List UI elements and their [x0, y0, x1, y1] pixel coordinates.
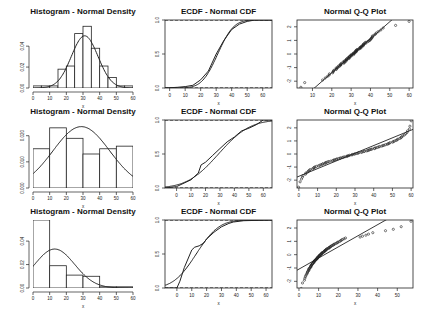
panel-title: Normal Q-Q Plot: [324, 207, 387, 216]
y-tick-label: 0.04: [20, 236, 25, 245]
chart-svg: Histogram - Normal Density0.000.020.0401…: [0, 0, 436, 313]
y-tick-label: 0.0: [155, 84, 160, 91]
y-tick-label: 0.00: [20, 283, 25, 292]
y-tick-label: 0.5: [155, 50, 160, 57]
y-tick-label: 0.0: [155, 284, 160, 291]
x-tick-label: 60: [130, 96, 136, 101]
qq-reference-line: [297, 129, 413, 177]
x-tick-label: 30: [214, 93, 220, 98]
x-tick-label: 20: [336, 293, 342, 298]
histogram-bar: [116, 146, 133, 188]
histogram-bar: [91, 48, 99, 88]
y-tick-label: 1.0: [155, 116, 160, 123]
y-tick-label: 0.010: [20, 156, 25, 168]
x-tick-label: 40: [234, 293, 240, 298]
x-tick-label: 50: [249, 293, 255, 298]
panel-title: ECDF - Normal CDF: [181, 7, 256, 16]
qq-point: [384, 230, 386, 232]
y-tick-label: 0: [287, 152, 292, 155]
panel-row2-col2: ECDF - Normal CDF0.00.51.00102030405060x: [155, 107, 272, 206]
normal-cdf-curve: [165, 20, 272, 88]
x-tick-label: 20: [329, 93, 335, 98]
x-tick-label: 10: [47, 296, 53, 301]
ecdf-line: [165, 20, 272, 88]
x-tick-label: 0: [176, 293, 179, 298]
x-axis-label: x: [217, 101, 220, 106]
x-tick-label: 60: [264, 293, 270, 298]
qq-point: [304, 82, 306, 84]
x-tick-label: 20: [203, 193, 209, 198]
y-tick-label: 1: [287, 240, 292, 243]
qq-point: [408, 128, 410, 130]
x-axis-label: x: [354, 201, 357, 206]
panel-row1-col3: Normal Q-Q Plot-2-1012102030405060x: [287, 1, 413, 106]
x-tick-label: 60: [260, 93, 266, 98]
x-tick-label: 40: [97, 96, 103, 101]
qq-point: [301, 282, 303, 284]
qq-point: [395, 24, 397, 26]
x-tick-label: 50: [114, 296, 120, 301]
x-tick-label: 60: [409, 193, 415, 198]
x-axis-label: x: [217, 301, 220, 306]
x-tick-label: 40: [375, 293, 381, 298]
plot-box: [165, 20, 272, 88]
y-tick-label: -2: [287, 279, 292, 283]
x-tick-label: 60: [407, 93, 413, 98]
y-tick-label: 0.00: [20, 83, 25, 92]
x-tick-label: 10: [189, 193, 195, 198]
x-tick-label: 0: [298, 293, 301, 298]
panel-title: ECDF - Normal CDF: [181, 207, 256, 216]
y-tick-label: 0.04: [20, 41, 25, 50]
panel-title: Histogram - Normal Density: [30, 107, 136, 116]
y-tick-label: 1: [287, 39, 292, 42]
ecdf-line: [165, 220, 272, 288]
histogram-bar: [100, 149, 117, 188]
x-tick-label: 40: [229, 93, 235, 98]
panel-row2-col3: Normal Q-Q Plot-2-10120102030405060x: [287, 107, 414, 206]
y-tick-label: -1: [287, 266, 292, 270]
y-tick-label: 0.5: [155, 150, 160, 157]
x-tick-label: 10: [183, 93, 189, 98]
y-tick-label: -1: [287, 165, 292, 169]
histogram-bar: [33, 220, 50, 288]
x-axis-label: x: [217, 201, 220, 206]
x-axis-label: x: [82, 304, 85, 309]
x-tick-label: 30: [355, 293, 361, 298]
x-tick-label: 20: [334, 193, 340, 198]
chart-grid: Histogram - Normal Density0.000.020.0401…: [0, 0, 436, 313]
qq-point: [400, 226, 402, 228]
x-tick-label: 30: [349, 93, 355, 98]
y-tick-label: 1: [287, 139, 292, 142]
x-tick-label: 50: [245, 93, 251, 98]
qq-point: [372, 232, 374, 234]
x-axis-label: x: [354, 101, 357, 106]
panel-row1-col2: ECDF - Normal CDF0.00.51.00102030405060x: [155, 7, 272, 106]
panel-row3-col2: ECDF - Normal CDF0.00.51.00102030405060x: [155, 207, 272, 306]
histogram-bar: [33, 149, 50, 188]
y-tick-label: 0.02: [20, 62, 25, 71]
normal-cdf-curve: [165, 220, 272, 285]
x-tick-label: 30: [80, 196, 86, 201]
x-tick-label: 50: [387, 93, 393, 98]
y-tick-label: 2: [287, 25, 292, 28]
y-tick-label: -1: [287, 65, 292, 69]
x-tick-label: 10: [315, 193, 321, 198]
x-tick-label: 50: [114, 196, 120, 201]
x-tick-label: 40: [371, 193, 377, 198]
histogram-bar: [83, 154, 100, 188]
qq-point: [410, 220, 412, 222]
qq-point: [408, 20, 410, 22]
x-tick-label: 30: [352, 193, 358, 198]
qq-point: [367, 233, 369, 235]
y-tick-label: 0: [287, 52, 292, 55]
x-tick-label: 20: [64, 96, 70, 101]
qq-point: [299, 181, 301, 183]
x-tick-label: 40: [97, 196, 103, 201]
x-tick-label: 50: [395, 293, 401, 298]
x-tick-label: 20: [64, 196, 70, 201]
x-tick-label: 50: [114, 96, 120, 101]
x-tick-label: 60: [261, 193, 267, 198]
x-tick-label: 10: [310, 93, 316, 98]
x-tick-label: 60: [130, 196, 136, 201]
y-tick-label: 0: [287, 253, 292, 256]
